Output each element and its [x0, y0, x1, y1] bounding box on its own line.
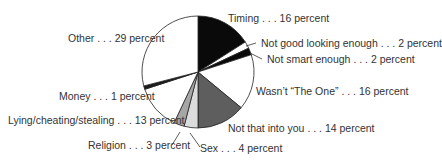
label-not-that-into-you: Not that into you . . . 14 percent [228, 122, 375, 134]
label-sex: Sex . . . 4 percent [200, 142, 282, 154]
leader-not-good-looking [246, 43, 256, 46]
label-timing: Timing . . . 16 percent [228, 12, 329, 24]
label-not-good-looking: Not good looking enough . . . 2 percent [261, 37, 442, 49]
label-other: Other . . . 29 percent [68, 32, 164, 44]
leader-sex [190, 133, 200, 147]
label-money: Money . . . 1 percent [59, 90, 155, 102]
label-religion: Religion . . . 3 percent [88, 139, 190, 151]
label-lying: Lying/cheating/stealing . . . 13 percent [8, 114, 184, 126]
label-wasnt-the-one: Wasn’t “The One” . . . 16 percent [256, 85, 409, 97]
label-not-smart: Not smart enough . . . 2 percent [267, 53, 415, 65]
